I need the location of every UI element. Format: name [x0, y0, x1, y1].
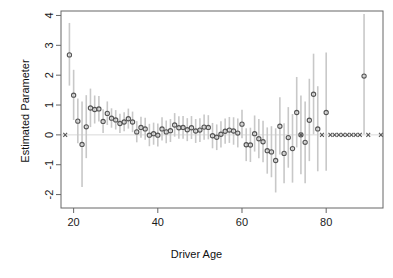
y-axis-tick-label: 1	[43, 102, 55, 108]
y-axis-tick-label: 3	[43, 42, 55, 48]
y-axis-tick-label: -1	[43, 160, 55, 170]
scatter-plot-svg: 2040608043210-1-2	[0, 0, 393, 278]
x-axis-tick-label: 20	[68, 216, 80, 228]
y-axis-tick-label: 0	[43, 132, 55, 138]
x-axis-tick-label: 80	[320, 216, 332, 228]
x-axis-tick-label: 60	[236, 216, 248, 228]
chart-container: 2040608043210-1-2 Driver Age Estimated P…	[0, 0, 393, 278]
y-axis-title: Estimated Parameter	[19, 31, 31, 191]
y-axis-tick-label: 2	[43, 72, 55, 78]
x-axis-title: Driver Age	[0, 248, 393, 260]
x-axis-tick-label: 40	[152, 216, 164, 228]
y-axis-tick-label: -2	[43, 190, 55, 200]
plot-frame	[61, 11, 383, 208]
y-axis-tick-label: 4	[43, 12, 55, 18]
